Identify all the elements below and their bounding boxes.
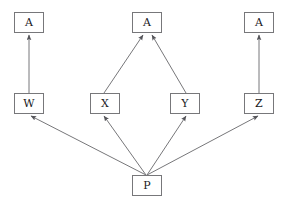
edge-p-to-w xyxy=(31,116,146,175)
node-label: P xyxy=(143,180,151,191)
edge-p-to-z xyxy=(147,116,258,175)
node-label: Z xyxy=(255,98,263,109)
edge-p-to-y xyxy=(147,116,186,175)
node-z[interactable]: Z xyxy=(244,93,274,114)
node-y[interactable]: Y xyxy=(170,93,200,114)
node-label: X xyxy=(101,98,109,109)
node-a-left[interactable]: A xyxy=(14,12,44,33)
edge-p-to-x xyxy=(104,116,146,175)
edge-y-to-a-middle xyxy=(152,35,186,93)
diagram-canvas: A A A W X Y Z P xyxy=(0,0,291,207)
node-x[interactable]: X xyxy=(90,93,120,114)
node-label: A xyxy=(255,17,263,28)
node-label: A xyxy=(143,17,151,28)
node-a-right[interactable]: A xyxy=(244,12,274,33)
node-label: Y xyxy=(181,98,188,109)
node-p[interactable]: P xyxy=(132,175,162,196)
node-a-middle[interactable]: A xyxy=(132,12,162,33)
node-label: W xyxy=(23,98,35,109)
node-w[interactable]: W xyxy=(14,93,44,114)
edge-x-to-a-middle xyxy=(104,35,143,93)
node-label: A xyxy=(25,17,33,28)
